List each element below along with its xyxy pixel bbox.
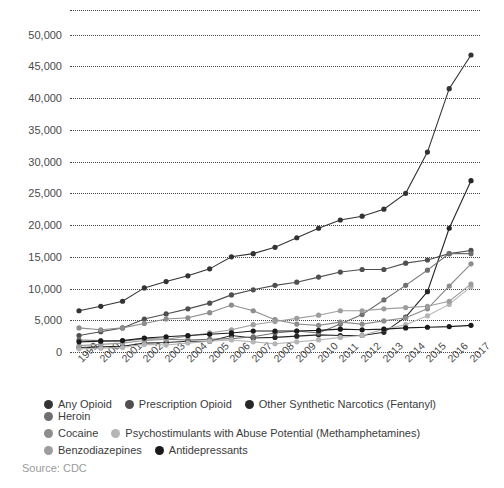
legend-swatch-icon <box>44 429 53 438</box>
gridline-top <box>70 10 480 11</box>
legend-item[interactable]: Other Synthetic Narcotics (Fentanyl) <box>245 398 436 410</box>
y-tick-label: 5,000 <box>34 314 62 326</box>
legend-label: Benzodiazepines <box>58 444 142 456</box>
y-tick-label: 35,000 <box>28 124 62 136</box>
series-any-opioid <box>76 52 473 313</box>
y-tick-label: 10,000 <box>28 283 62 295</box>
legend-label: Prescription Opioid <box>139 398 232 410</box>
legend-label: Psychostimulants with Abuse Potential (M… <box>125 427 420 439</box>
legend-item[interactable]: Prescription Opioid <box>125 398 232 410</box>
legend-swatch-icon <box>245 400 254 409</box>
legend-item[interactable]: Cocaine <box>44 427 98 439</box>
plot-area: 05,00010,00015,00020,00025,00030,00035,0… <box>70 22 480 352</box>
legend-swatch-icon <box>44 446 53 455</box>
legend-item[interactable]: Benzodiazepines <box>44 444 142 456</box>
legend-item[interactable]: Any Opioid <box>44 398 112 410</box>
y-tick-label: 45,000 <box>28 60 62 72</box>
legend: Any OpioidPrescription OpioidOther Synth… <box>44 398 474 461</box>
legend-swatch-icon <box>125 400 134 409</box>
legend-item[interactable]: Heroin <box>44 410 90 422</box>
chart-root: 05,00010,00015,00020,00025,00030,00035,0… <box>0 0 504 488</box>
y-tick-label: 25,000 <box>28 187 62 199</box>
legend-swatch-icon <box>44 412 53 421</box>
legend-label: Other Synthetic Narcotics (Fentanyl) <box>259 398 436 410</box>
y-tick-label: 15,000 <box>28 251 62 263</box>
legend-swatch-icon <box>155 446 164 455</box>
legend-row: Any OpioidPrescription OpioidOther Synth… <box>44 398 474 422</box>
legend-item[interactable]: Psychostimulants with Abuse Potential (M… <box>111 427 420 439</box>
legend-item[interactable]: Antidepressants <box>155 444 248 456</box>
y-tick-label: 20,000 <box>28 219 62 231</box>
legend-swatch-icon <box>44 400 53 409</box>
source-note: Source: CDC <box>22 462 87 474</box>
series-lines <box>70 22 480 352</box>
y-tick-label: 0 <box>56 346 62 358</box>
series-other-synthetic-narcotics-fentanyl <box>76 178 473 350</box>
legend-label: Cocaine <box>58 427 98 439</box>
legend-label: Antidepressants <box>169 444 248 456</box>
y-tick-label: 50,000 <box>28 29 62 41</box>
legend-label: Any Opioid <box>58 398 112 410</box>
legend-swatch-icon <box>111 429 120 438</box>
y-tick-label: 30,000 <box>28 156 62 168</box>
y-tick-label: 40,000 <box>28 92 62 104</box>
legend-label: Heroin <box>58 410 90 422</box>
legend-row: BenzodiazepinesAntidepressants <box>44 444 474 456</box>
legend-row: CocainePsychostimulants with Abuse Poten… <box>44 427 474 439</box>
